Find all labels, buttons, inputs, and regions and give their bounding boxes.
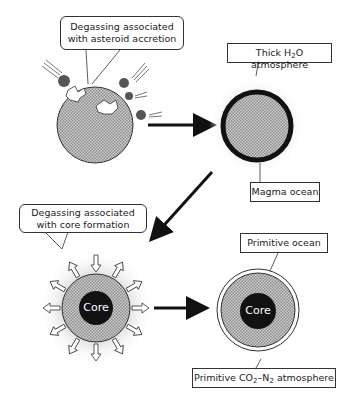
core-label-stage3: Core (76, 301, 116, 314)
label-text: –N (258, 372, 270, 383)
accretion-planet (42, 50, 162, 163)
label-magma-ocean: Magma ocean (250, 182, 320, 202)
arrow-diagonal (157, 172, 212, 233)
label-core-formation: Degassing associated with core formation (19, 204, 147, 233)
label-text: Primitive ocean (247, 237, 321, 248)
label-line: Degassing associated (61, 21, 183, 33)
diagram-canvas: Degassing associated with asteroid accre… (0, 0, 357, 403)
label-text: Thick H (256, 47, 291, 58)
label-line: with asteroid accretion (61, 33, 183, 45)
label-line: Degassing associated (20, 207, 146, 219)
label-text: Magma ocean (252, 186, 319, 197)
label-primitive-atmosphere: Primitive CO2–N2 atmosphere (192, 368, 336, 388)
core-formation-planet (38, 232, 154, 366)
magma-planet (209, 64, 305, 182)
label-asteroid-accretion: Degassing associated with asteroid accre… (60, 16, 184, 50)
label-primitive-ocean: Primitive ocean (240, 233, 328, 253)
label-text: Primitive CO (194, 372, 253, 383)
core-label-stage4: Core (238, 304, 278, 317)
label-thick-h2o-atmosphere: Thick H2O atmosphere (227, 43, 332, 63)
label-text: atmosphere (274, 372, 334, 383)
label-line: with core formation (20, 219, 146, 231)
